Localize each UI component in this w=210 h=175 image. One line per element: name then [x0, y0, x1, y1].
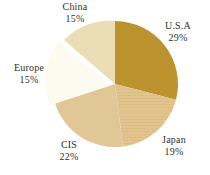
pie-label-europe-name: Europe	[2, 62, 56, 74]
pie-label-europe: Europe 15%	[2, 62, 56, 85]
pie-label-usa-percent: 29%	[150, 32, 206, 44]
pie-label-japan-percent: 19%	[146, 146, 202, 158]
pie-label-japan: Japan 19%	[146, 134, 202, 157]
pie-label-japan-name: Japan	[146, 134, 202, 146]
pie-label-europe-percent: 15%	[2, 74, 56, 86]
pie-label-china-percent: 15%	[48, 13, 102, 25]
pie-label-china-name: China	[48, 1, 102, 13]
pie-chart: U.S.A 29% Japan 19% CIS 22% Europe 15% C…	[0, 0, 210, 175]
pie-label-cis: CIS 22%	[42, 139, 96, 162]
pie-label-cis-name: CIS	[42, 139, 96, 151]
pie-label-usa-name: U.S.A	[150, 20, 206, 32]
pie-label-china: China 15%	[48, 1, 102, 24]
pie-label-cis-percent: 22%	[42, 151, 96, 163]
pie-label-usa: U.S.A 29%	[150, 20, 206, 43]
